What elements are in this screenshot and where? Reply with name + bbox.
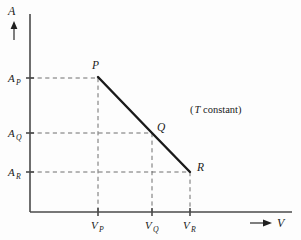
point-labels-group: P Q R — [91, 59, 204, 173]
x-tick-base-vp: V — [91, 219, 99, 231]
x-axis-label: V — [277, 216, 286, 230]
y-tick-base-ar: A — [7, 166, 15, 178]
y-tick-label-aq: A Q — [7, 127, 22, 142]
y-tick-base-ap: A — [7, 72, 15, 84]
x-tick-sub-vp: P — [98, 225, 104, 234]
y-tick-labels-group: A P A Q A R — [7, 72, 22, 181]
y-axis-label: A — [7, 4, 16, 18]
y-tick-base-aq: A — [7, 127, 15, 139]
point-label-q: Q — [157, 121, 166, 133]
x-axis-label-group: V — [250, 216, 286, 230]
annotation-t-constant: (T constant) — [190, 104, 242, 116]
x-tick-sub-vr: R — [190, 225, 196, 234]
x-tick-labels-group: V P V Q V R — [91, 219, 196, 234]
point-label-p: P — [91, 59, 99, 71]
x-tick-label-vr: V R — [183, 219, 196, 234]
x-tick-base-vr: V — [183, 219, 191, 231]
plot-svg: A V A P A Q A R — [0, 0, 301, 240]
y-tick-sub-ap: P — [15, 78, 21, 87]
x-tick-base-vq: V — [145, 219, 153, 231]
up-arrow-icon — [11, 21, 18, 40]
x-tick-sub-vq: Q — [153, 225, 159, 234]
annotation-open-paren: ( — [190, 104, 194, 116]
axes-group — [30, 14, 292, 212]
x-tick-label-vq: V Q — [145, 219, 159, 234]
x-tick-label-vp: V P — [91, 219, 104, 234]
y-axis-label-group: A — [7, 4, 17, 40]
figure-canvas: A V A P A Q A R — [0, 0, 301, 240]
point-label-r: R — [196, 161, 204, 173]
y-tick-label-ar: A R — [7, 166, 21, 181]
right-arrow-icon — [250, 219, 272, 226]
guide-lines-group — [30, 78, 190, 212]
y-tick-sub-aq: Q — [16, 133, 22, 142]
y-tick-label-ap: A P — [7, 72, 21, 87]
svg-text:(T constant): (T constant) — [190, 104, 242, 116]
annotation-text: constant) — [200, 104, 242, 116]
y-tick-sub-ar: R — [15, 172, 21, 181]
isotherm-curve — [98, 77, 190, 172]
